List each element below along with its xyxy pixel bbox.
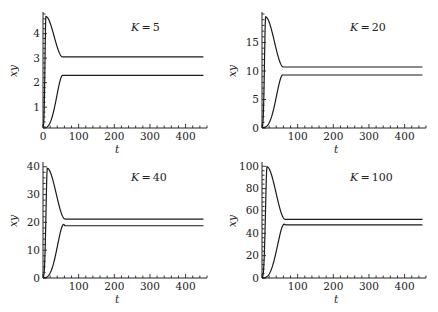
- y-tick-label: 40: [27, 160, 40, 172]
- series-lower: [43, 75, 203, 128]
- x-tick-label: 0: [40, 130, 47, 142]
- panel-title: K = 20: [349, 21, 386, 34]
- y-axis-label: xy: [226, 64, 238, 77]
- x-tick-label: 300: [140, 130, 160, 142]
- figure: 01002003004001234txyK = 5100200300400051…: [0, 0, 438, 312]
- x-tick-label: 100: [288, 280, 308, 292]
- y-tick-label: 0: [252, 272, 259, 284]
- panel-title: K = 5: [130, 21, 160, 34]
- y-axis-label: xy: [226, 214, 238, 227]
- y-axis-label: xy: [7, 214, 19, 227]
- x-tick-label: 200: [323, 130, 343, 142]
- x-tick-label: 400: [395, 130, 415, 142]
- y-tick-label: 4: [33, 27, 40, 39]
- panel-1: 01002003004001234txyK = 5: [7, 12, 207, 155]
- x-tick-label: 400: [176, 130, 196, 142]
- y-tick-label: 60: [246, 204, 259, 216]
- y-tick-label: 15: [246, 36, 259, 48]
- y-axis-label: xy: [7, 64, 19, 77]
- y-tick-label: 0: [252, 122, 259, 134]
- y-tick-label: 20: [27, 216, 40, 228]
- y-tick-label: 30: [27, 188, 40, 200]
- x-tick-label: 300: [359, 280, 379, 292]
- panel-3: 100200300400010203040txyK = 40: [7, 160, 207, 305]
- y-tick-label: 80: [246, 182, 259, 194]
- y-tick-label: 1: [33, 101, 40, 113]
- x-tick-label: 300: [359, 130, 379, 142]
- panel-4: 100200300400020406080100txyK = 100: [226, 160, 426, 305]
- x-tick-label: 300: [140, 280, 160, 292]
- series-lower: [262, 224, 422, 278]
- series-upper: [262, 167, 422, 278]
- y-tick-label: 0: [33, 272, 40, 284]
- y-tick-label: 2: [33, 76, 40, 88]
- x-tick-label: 200: [104, 280, 124, 292]
- x-tick-label: 200: [323, 280, 343, 292]
- series-lower: [262, 75, 422, 127]
- series-upper: [43, 168, 203, 277]
- y-tick-label: 20: [246, 249, 259, 261]
- series-lower: [43, 224, 203, 277]
- y-tick-label: 10: [27, 244, 40, 256]
- x-tick-label: 100: [69, 280, 89, 292]
- panel-title: K = 40: [130, 171, 167, 184]
- panel-title: K = 100: [349, 171, 393, 184]
- series-upper: [262, 17, 422, 127]
- x-tick-label: 200: [104, 130, 124, 142]
- x-tick-label: 400: [176, 280, 196, 292]
- x-axis-label: t: [115, 143, 120, 155]
- y-tick-label: 3: [33, 52, 40, 64]
- x-tick-label: 100: [69, 130, 89, 142]
- x-axis-label: t: [334, 143, 339, 155]
- x-axis-label: t: [115, 293, 120, 305]
- series-upper: [43, 16, 203, 126]
- x-tick-label: 100: [288, 130, 308, 142]
- x-axis-label: t: [334, 293, 339, 305]
- panel-2: 100200300400051015txyK = 20: [226, 12, 426, 155]
- x-tick-label: 400: [395, 280, 415, 292]
- y-tick-label: 40: [246, 227, 259, 239]
- y-tick-label: 5: [252, 93, 259, 105]
- y-tick-label: 10: [246, 65, 259, 77]
- y-tick-label: 100: [239, 160, 259, 172]
